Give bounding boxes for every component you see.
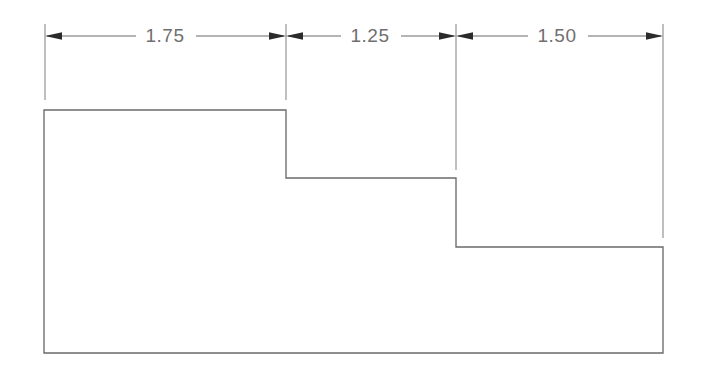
dimension-3-arrow-right <box>646 32 663 40</box>
dimension-2-label: 1.25 <box>351 25 390 46</box>
dimension-2-arrow-right <box>439 32 456 40</box>
dimension-1-group: 1.75 <box>45 25 286 46</box>
technical-drawing-canvas: 1.75 1.25 1.50 <box>0 0 701 371</box>
drawing-svg: 1.75 1.25 1.50 <box>0 0 701 371</box>
dimension-1-arrow-left <box>45 32 62 40</box>
stepped-profile-outline <box>44 110 663 353</box>
dimension-2-group: 1.25 <box>286 25 456 46</box>
dimension-1-arrow-right <box>269 32 286 40</box>
dimension-3-label: 1.50 <box>538 25 577 46</box>
extension-lines-group <box>45 24 663 238</box>
dimension-3-group: 1.50 <box>456 25 663 46</box>
dimension-2-arrow-left <box>286 32 303 40</box>
dimension-1-label: 1.75 <box>146 25 185 46</box>
dimension-3-arrow-left <box>456 32 473 40</box>
